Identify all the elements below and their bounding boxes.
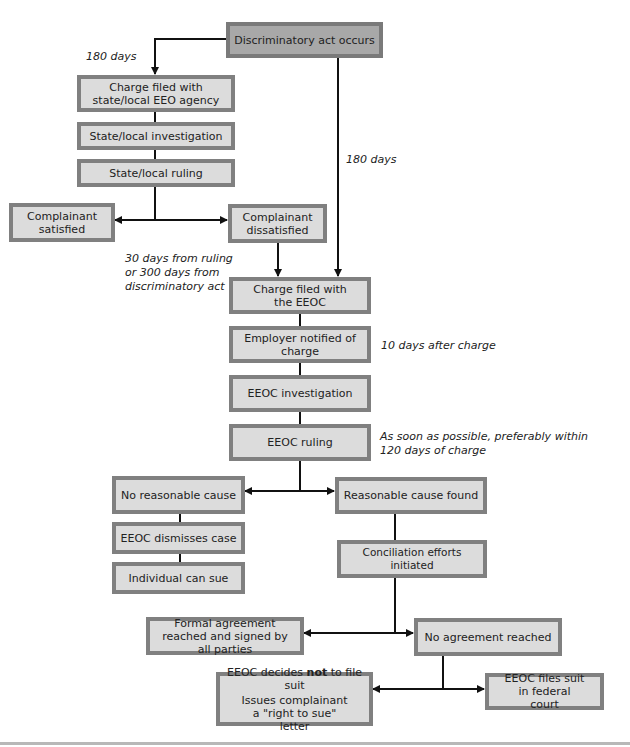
note-30-days: 30 days from ruling or 300 days from dis… (125, 252, 233, 294)
node-label: Individual can sue (129, 572, 229, 585)
node-label: EEOC dismisses case (120, 532, 236, 545)
node-reasonable-cause: Reasonable cause found (335, 477, 487, 514)
note-10-days: 10 days after charge (381, 339, 496, 353)
note-ruling-timing: As soon as possible, preferably within 1… (380, 430, 588, 458)
node-label-line2: Issues complainant a "right to sue" lett… (223, 692, 366, 733)
note-line: As soon as possible, preferably within (380, 430, 588, 444)
note-180-days-left: 180 days (86, 50, 136, 64)
node-charge-eeoc: Charge filed with the EEOC (229, 277, 371, 314)
node-label: Formal agreement reached and signed by a… (158, 617, 292, 656)
node-label: State/local investigation (89, 130, 222, 143)
node-label: Charge filed with state/local EEO agency (85, 81, 227, 107)
node-label-line1: EEOC decides not to file suit (223, 666, 366, 692)
node-label: Charge filed with the EEOC (251, 283, 349, 309)
node-label: Conciliation efforts initiated (343, 546, 481, 572)
node-label: Discriminatory act occurs (234, 34, 375, 47)
node-no-reasonable-cause: No reasonable cause (112, 476, 245, 514)
note-180-days-right: 180 days (346, 153, 396, 167)
node-discriminatory-act: Discriminatory act occurs (226, 22, 383, 58)
node-state-ruling: State/local ruling (77, 159, 235, 187)
node-no-agreement: No agreement reached (414, 618, 562, 656)
node-eeoc-dismisses: EEOC dismisses case (112, 522, 245, 554)
eeoc-process-flowchart: Discriminatory act occurs Charge filed w… (0, 0, 630, 747)
node-label: EEOC files suit in federal court (503, 672, 586, 711)
node-state-investigation: State/local investigation (77, 122, 235, 150)
node-complainant-dissatisfied: Complainant dissatisfied (228, 204, 327, 243)
node-eeoc-investigation: EEOC investigation (229, 375, 371, 412)
node-eeoc-ruling: EEOC ruling (229, 424, 371, 461)
node-conciliation: Conciliation efforts initiated (337, 540, 487, 578)
node-formal-agreement: Formal agreement reached and signed by a… (146, 617, 304, 655)
note-line: 30 days from ruling (125, 252, 233, 266)
node-label: Reasonable cause found (344, 489, 478, 502)
node-label: EEOC ruling (267, 436, 332, 449)
node-label: EEOC investigation (248, 387, 353, 400)
node-label: Employer notified of charge (243, 332, 357, 358)
note-line: 120 days of charge (380, 444, 588, 458)
node-complainant-satisfied: Complainant satisfied (9, 203, 115, 242)
note-line: discriminatory act (125, 280, 233, 294)
node-label: State/local ruling (109, 167, 203, 180)
node-eeoc-files-suit: EEOC files suit in federal court (485, 673, 604, 710)
note-line: or 300 days from (125, 266, 233, 280)
node-charge-state-agency: Charge filed with state/local EEO agency (77, 75, 235, 112)
node-label: No reasonable cause (121, 489, 236, 502)
node-label: Complainant dissatisfied (242, 211, 313, 237)
node-employer-notified: Employer notified of charge (229, 326, 371, 363)
node-eeoc-not-file: EEOC decides not to file suit Issues com… (216, 672, 373, 726)
bottom-divider (0, 742, 630, 745)
node-individual-can-sue: Individual can sue (112, 562, 245, 594)
node-label: Complainant satisfied (27, 210, 97, 236)
node-label: No agreement reached (425, 631, 552, 644)
